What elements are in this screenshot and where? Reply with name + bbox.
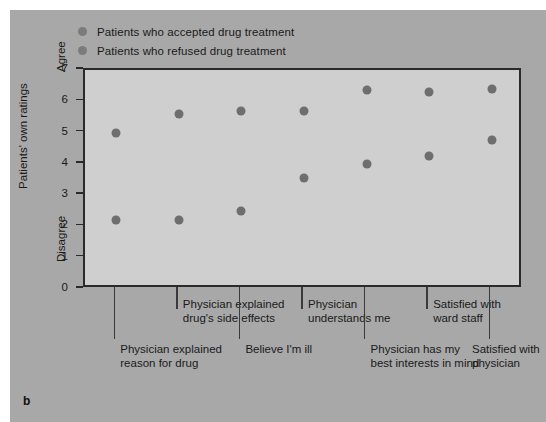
x-axis-category-line: drug's side effects <box>183 311 285 325</box>
x-axis-category-line: Physician explained <box>120 342 222 356</box>
data-point <box>487 136 496 145</box>
chart-legend: Patients who accepted drug treatment Pat… <box>78 22 294 60</box>
legend-label-accepted: Patients who accepted drug treatment <box>97 26 294 38</box>
x-axis-tick <box>489 287 491 339</box>
figure-panel: Patients who accepted drug treatment Pat… <box>10 10 546 422</box>
y-axis-tick <box>76 99 83 101</box>
y-axis-tick-label: 5 <box>54 125 68 137</box>
plot-area <box>83 68 521 287</box>
x-axis-category-label: Physicianunderstands me <box>308 297 390 325</box>
x-axis-category-label: Physician has mybest interests in mind <box>371 342 480 370</box>
y-axis-tick-label: 0 <box>54 281 68 293</box>
data-point <box>300 173 309 182</box>
x-axis-category-line: Physician explained <box>183 297 285 311</box>
y-axis-tick <box>76 67 83 69</box>
x-axis-category-line: Satisfied with <box>472 342 540 356</box>
legend-item-refused: Patients who refused drug treatment <box>78 41 294 60</box>
x-axis-tick <box>301 287 303 309</box>
data-point <box>487 84 496 93</box>
x-axis-category-label: Believe I'm ill <box>245 342 312 356</box>
y-axis-tick <box>76 161 83 163</box>
data-point <box>237 206 246 215</box>
y-axis-tick-label: 4 <box>54 156 68 168</box>
x-axis-category-line: Believe I'm ill <box>245 342 312 356</box>
data-point <box>425 87 434 96</box>
x-axis-category-line: Physician <box>308 297 390 311</box>
y-axis-tick <box>76 192 83 194</box>
data-point <box>362 159 371 168</box>
y-axis-tick <box>76 224 83 226</box>
y-axis-tick-label: 3 <box>54 187 68 199</box>
x-axis-category-line: ward staff <box>433 311 501 325</box>
x-axis-category-line: Satisfied with <box>433 297 501 311</box>
x-axis-category-line: physician <box>472 356 540 370</box>
data-point <box>362 86 371 95</box>
data-point <box>425 152 434 161</box>
y-axis-tick <box>76 130 83 132</box>
legend-item-accepted: Patients who accepted drug treatment <box>78 22 294 41</box>
x-axis-tick <box>176 287 178 309</box>
x-axis-category-label: Satisfied withward staff <box>433 297 501 325</box>
x-axis-tick <box>114 287 116 339</box>
data-point <box>174 109 183 118</box>
y-axis-tick-label: 6 <box>54 93 68 105</box>
x-axis-category-label: Satisfied withphysician <box>472 342 540 370</box>
y-axis-tick-label: 7 <box>54 62 68 74</box>
y-axis-tick <box>76 255 83 257</box>
data-point <box>300 106 309 115</box>
y-axis: 01234567 <box>10 10 83 422</box>
data-point <box>174 216 183 225</box>
x-axis-tick <box>426 287 428 309</box>
legend-label-refused: Patients who refused drug treatment <box>97 45 286 57</box>
x-axis-tick <box>239 287 241 339</box>
x-axis-category-line: understands me <box>308 311 390 325</box>
y-axis-tick-label: 2 <box>54 218 68 230</box>
data-point <box>237 106 246 115</box>
x-axis-category-line: reason for drug <box>120 356 222 370</box>
y-axis-tick <box>76 286 83 288</box>
x-axis-tick <box>364 287 366 339</box>
x-axis-category-label: Physician explainedreason for drug <box>120 342 222 370</box>
x-axis-category-line: Physician has my <box>371 342 480 356</box>
data-point <box>112 128 121 137</box>
y-axis-tick-label: 1 <box>54 250 68 262</box>
figure-letter: b <box>23 394 30 408</box>
x-axis-category-label: Physician explaineddrug's side effects <box>183 297 285 325</box>
x-axis-category-line: best interests in mind <box>371 356 480 370</box>
data-point <box>112 216 121 225</box>
